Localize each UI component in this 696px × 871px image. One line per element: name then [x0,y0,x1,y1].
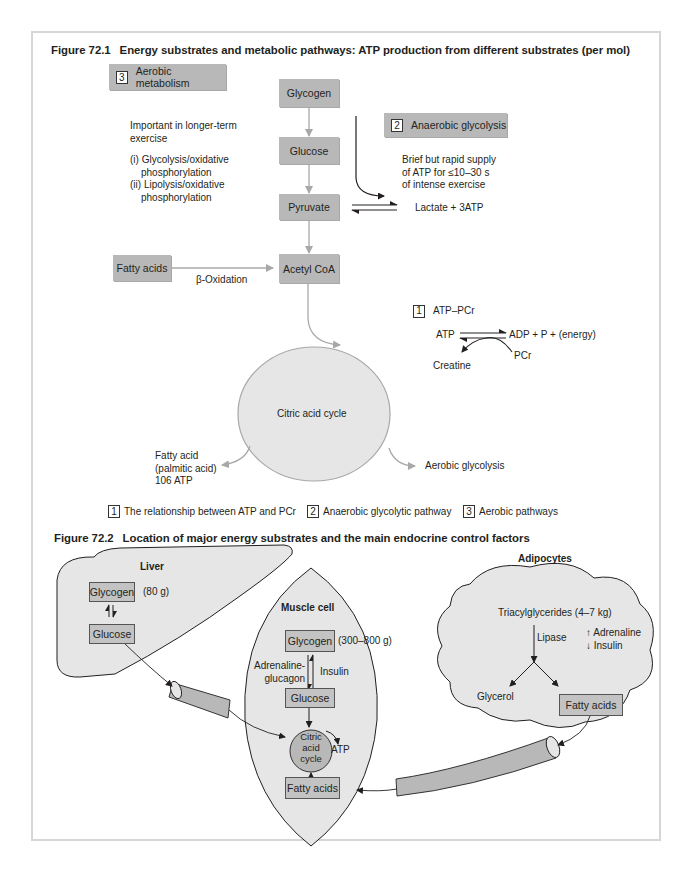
blood-vessel-tube [168,680,230,718]
liver-glycogen-amount: (80 g) [143,586,169,599]
figure-72-2-shapes [0,0,696,871]
liver-glycogen-box: Glycogen [89,582,135,602]
text-line: Adrenaline- [254,660,305,673]
adrenaline-glucagon-label: Adrenaline- glucagon [254,660,305,685]
muscle-glucose-box: Glucose [285,688,335,708]
insulin-label: Insulin [320,666,349,679]
insulin-down-label: ↓ Insulin [586,640,641,653]
muscle-fatty-acids-box: Fatty acids [285,777,340,799]
muscle-glycogen-amount: (300–800 g) [338,635,392,648]
adipocytes-label: Adipocytes [518,553,572,566]
text-line: Citric [295,731,327,742]
lipase-label: Lipase [537,632,566,645]
adipocyte-fatty-acids-box: Fatty acids [559,694,623,716]
blood-vessel-tube [396,735,562,796]
muscle-glycogen-box: Glycogen [285,630,335,652]
text-line: acid [295,742,327,753]
liver-glucose-box: Glucose [89,624,135,644]
liver-label: Liver [140,561,164,574]
text-line: glucagon [254,673,305,686]
muscle-cell-label: Muscle cell [281,602,334,615]
muscle-citric-cycle-label: Citric acid cycle [295,731,327,764]
muscle-atp-label: ATP [331,744,350,757]
text-line: cycle [295,753,327,764]
hormone-controls: ↑ Adrenaline ↓ Insulin [586,627,641,652]
glycerol-label: Glycerol [477,691,514,704]
adrenaline-up-label: ↑ Adrenaline [586,627,641,640]
triacylglycerides-label: Triacylglycerides (4–7 kg) [498,607,612,620]
